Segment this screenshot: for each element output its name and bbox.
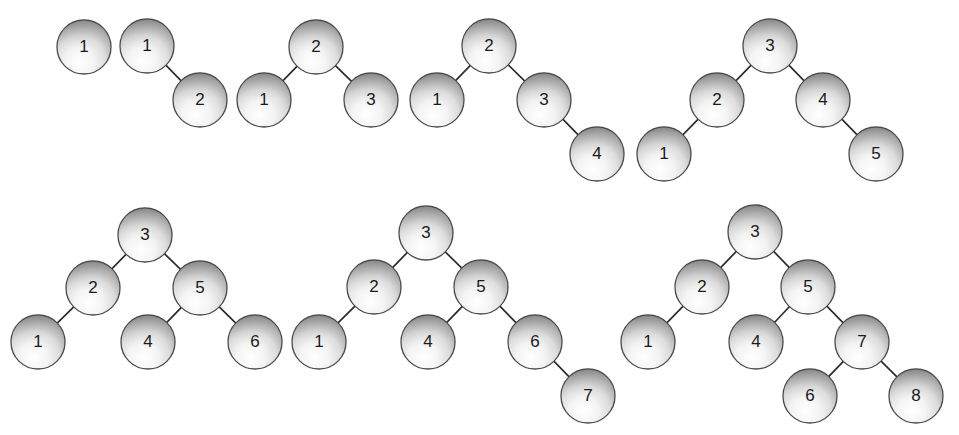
tree-node[interactable]: 1: [621, 315, 675, 369]
node-label: 1: [659, 144, 668, 163]
tree-node[interactable]: 8: [889, 369, 943, 423]
node-label: 5: [871, 144, 880, 163]
tree-edge: [218, 306, 237, 324]
node-label: 3: [765, 36, 774, 55]
tree-node[interactable]: 6: [783, 369, 837, 423]
tree-edge: [841, 118, 858, 136]
tree-edge: [553, 360, 570, 378]
node-label: 5: [803, 277, 812, 296]
tree-node[interactable]: 3: [517, 73, 571, 127]
tree-edge: [337, 305, 356, 324]
node-label: 6: [250, 332, 259, 351]
tree-edge: [165, 64, 182, 82]
tree-edge: [444, 251, 463, 269]
tree-edge: [499, 305, 517, 324]
node-label: 4: [818, 90, 827, 109]
tree-node[interactable]: 5: [781, 260, 835, 314]
tree-edge: [166, 306, 183, 323]
tree-edge: [507, 64, 526, 82]
tree-node[interactable]: 5: [454, 260, 508, 314]
node-label: 2: [484, 36, 493, 55]
tree-edge: [773, 250, 791, 268]
tree-node[interactable]: 5: [849, 127, 903, 181]
node-label: 1: [259, 90, 268, 109]
tree-node[interactable]: 7: [835, 315, 889, 369]
tree-node[interactable]: 1: [237, 73, 291, 127]
tree-node[interactable]: 6: [228, 315, 282, 369]
node-label: 1: [79, 37, 88, 56]
tree-node[interactable]: 7: [561, 369, 615, 423]
tree-edge: [56, 306, 75, 324]
tree-node[interactable]: 2: [173, 73, 227, 127]
tree-edge: [562, 118, 579, 136]
tree-edge: [666, 305, 684, 324]
node-label: 1: [314, 332, 323, 351]
tree-1-node: 1: [57, 20, 111, 74]
tree-node[interactable]: 1: [11, 315, 65, 369]
node-label: 1: [432, 90, 441, 109]
tree-node[interactable]: 3: [399, 206, 453, 260]
tree-node[interactable]: 3: [344, 73, 398, 127]
tree-node[interactable]: 2: [675, 260, 729, 314]
figure-canvas: 112213213432145321546321546732154768: [0, 0, 959, 435]
node-label: 1: [142, 36, 151, 55]
tree-node[interactable]: 3: [743, 19, 797, 73]
node-label: 2: [369, 277, 378, 296]
binary-tree-diagram: 112213213432145321546321546732154768: [0, 0, 959, 435]
tree-node[interactable]: 4: [121, 315, 175, 369]
node-label: 7: [857, 332, 866, 351]
tree-edge: [455, 64, 472, 81]
tree-edge: [720, 250, 738, 268]
node-label: 5: [476, 277, 485, 296]
node-label: 3: [539, 90, 548, 109]
tree-node[interactable]: 3: [728, 205, 782, 259]
tree-edge: [826, 305, 844, 324]
node-label: 3: [366, 90, 375, 109]
tree-edge: [828, 360, 845, 377]
tree-node[interactable]: 1: [410, 73, 464, 127]
tree-node[interactable]: 1: [120, 19, 174, 73]
tree-node[interactable]: 4: [796, 73, 850, 127]
node-label: 2: [697, 277, 706, 296]
tree-node[interactable]: 1: [292, 315, 346, 369]
tree-node[interactable]: 2: [347, 260, 401, 314]
tree-edge: [282, 65, 298, 82]
node-label: 1: [33, 332, 42, 351]
tree-edges-2: [165, 64, 182, 82]
tree-edge: [111, 253, 127, 270]
tree-node[interactable]: 1: [637, 127, 691, 181]
tree-4-nodes: 2134: [410, 19, 624, 181]
tree-node[interactable]: 2: [289, 20, 343, 74]
tree-node[interactable]: 4: [570, 127, 624, 181]
tree-node[interactable]: 2: [690, 73, 744, 127]
node-label: 2: [195, 90, 204, 109]
tree-5-nodes: 32145: [637, 19, 903, 181]
node-label: 4: [143, 332, 152, 351]
tree-node[interactable]: 2: [66, 261, 120, 315]
tree-node[interactable]: 4: [729, 315, 783, 369]
tree-node[interactable]: 5: [173, 261, 227, 315]
tree-node[interactable]: 4: [401, 315, 455, 369]
tree-edge: [682, 118, 699, 136]
node-label: 3: [140, 225, 149, 244]
tree-edge: [774, 306, 791, 324]
tree-edge: [163, 253, 181, 271]
node-label: 2: [88, 278, 97, 297]
tree-node[interactable]: 6: [508, 315, 562, 369]
node-label: 7: [583, 386, 592, 405]
tree-node[interactable]: 2: [462, 19, 516, 73]
tree-edge: [880, 360, 898, 378]
node-label: 4: [751, 332, 760, 351]
node-label: 4: [592, 144, 601, 163]
node-label: 2: [712, 90, 721, 109]
tree-node[interactable]: 3: [118, 208, 172, 262]
node-label: 2: [311, 37, 320, 56]
tree-node[interactable]: 1: [57, 20, 111, 74]
tree-edge: [446, 305, 464, 323]
node-label: 6: [805, 386, 814, 405]
node-label: 1: [643, 332, 652, 351]
node-label: 3: [421, 223, 430, 242]
node-label: 8: [911, 386, 920, 405]
node-label: 4: [423, 332, 432, 351]
tree-3-nodes: 213: [237, 20, 398, 127]
